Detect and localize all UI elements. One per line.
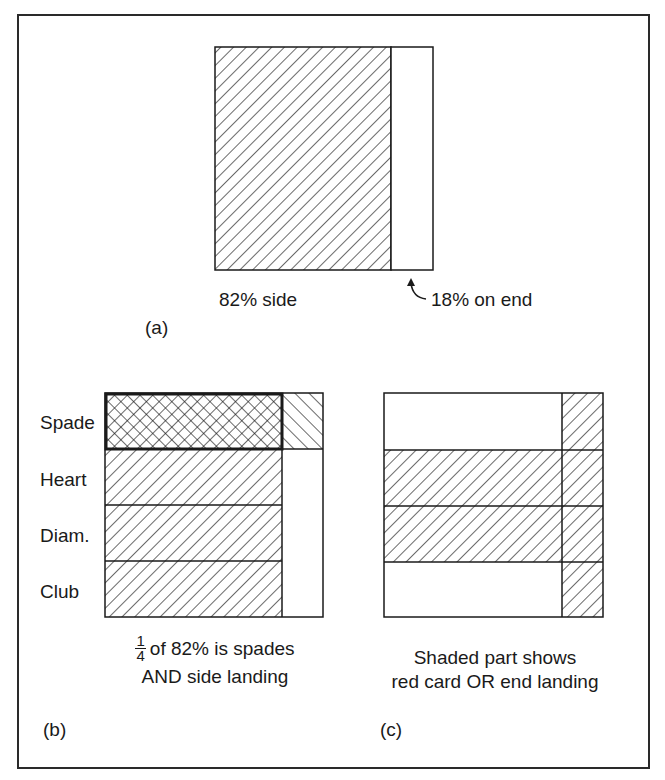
panel-a-tag: (a) xyxy=(145,318,168,337)
end-region xyxy=(391,47,433,270)
end-percent-label: 18% on end xyxy=(431,290,532,309)
panel-c-tag: (c) xyxy=(380,720,402,739)
side-percent-label: 82% side xyxy=(219,290,297,309)
caption-b-line1: of 82% is spades xyxy=(150,637,295,661)
fraction-one-quarter: 1 4 xyxy=(135,634,145,663)
panel-b-tag: (b) xyxy=(43,720,66,739)
caption-b-line2: AND side landing xyxy=(115,665,315,689)
panel-a-square xyxy=(215,47,433,270)
row-label-spade: Spade xyxy=(40,413,95,432)
caption-c-line1: Shaded part shows xyxy=(370,646,620,670)
curved-arrow-icon xyxy=(407,278,426,299)
side-region xyxy=(215,47,391,270)
panel-c-caption: Shaded part shows red card OR end landin… xyxy=(370,646,620,694)
panel-b-square xyxy=(105,393,323,617)
panel-c-square xyxy=(384,393,603,617)
caption-c-line2: red card OR end landing xyxy=(370,670,620,694)
row-label-diamond: Diam. xyxy=(40,526,90,545)
row-label-club: Club xyxy=(40,582,79,601)
panel-b-caption: 1 4 of 82% is spades AND side landing xyxy=(115,634,315,689)
row-label-heart: Heart xyxy=(40,470,86,489)
